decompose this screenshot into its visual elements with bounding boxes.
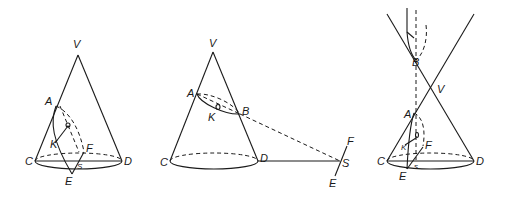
label-e: E [65,175,73,187]
label-e: E [329,177,337,189]
label-a: A [403,108,411,120]
label-e: E [399,170,407,182]
label-d: D [124,155,132,167]
cone-3-base-back [387,153,474,161]
cone-1-line-af [60,106,79,152]
label-a: A [44,95,52,107]
label-k: K [208,111,216,123]
label-c: C [160,156,168,168]
label-f: F [347,135,355,147]
label-d: D [260,152,268,164]
cone-2-base-front [170,161,258,169]
conic-sections-diagram: V A K F C D S E V A B K C D S F E [0,0,506,199]
label-v: V [209,37,218,49]
label-d: D [476,155,484,167]
label-k: K [50,138,58,150]
cone-1-right-generator [78,55,122,161]
figure-2-cone-with-directrix: V A B K C D S F E [160,37,355,189]
label-b: B [242,105,249,117]
label-s: S [77,162,83,171]
label-k: K [401,143,407,152]
cone-3-line-ko [405,138,416,145]
cone-2-left-generator [170,52,213,161]
label-c: C [377,155,385,167]
figure-1-cone-ellipse-section: V A K F C D S E [25,38,132,187]
cone-2-point-o [216,105,220,110]
label-v: V [437,83,446,95]
figure-3-double-cone-hyperbola: B V A K F C D s E [377,8,484,182]
cone-3-upper-branch-back [416,25,426,60]
label-f: F [425,139,433,151]
cone-1-section-curve-back [56,106,84,152]
cone-3-point-o [416,133,419,138]
label-s: S [342,157,350,169]
label-s: s [414,162,418,171]
label-a: A [186,87,194,99]
cone-2-base-back [170,153,258,161]
label-v: V [73,38,82,50]
label-c: C [25,155,33,167]
cone-3-upper-branch [407,8,416,60]
cone-3-base-front [387,161,474,169]
label-b: B [412,56,419,68]
label-f: F [86,142,94,154]
cone-1-base-back [35,153,122,161]
